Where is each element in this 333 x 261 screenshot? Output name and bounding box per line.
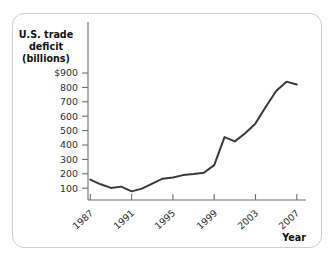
- x-tick-label-2007: 2007: [276, 207, 301, 231]
- y-tick-label-900: $900: [54, 67, 78, 78]
- y-tick-label-800: 800: [60, 82, 78, 93]
- x-tick-label-1999: 1999: [194, 207, 219, 231]
- x-tick-label-2003: 2003: [235, 207, 260, 231]
- trade-deficit-line-chart: U.S. trade deficit (billions) $900 800 7…: [0, 0, 333, 261]
- y-axis-title: U.S. trade deficit (billions): [19, 29, 74, 64]
- x-tick-label-1987: 1987: [70, 207, 95, 231]
- y-tick-label-100: 100: [60, 183, 78, 194]
- y-axis-title-line-2: deficit: [29, 41, 63, 52]
- x-axis: 1987 1991 1995 1999 2003 2007 Year: [70, 194, 306, 243]
- y-tick-label-200: 200: [60, 168, 78, 179]
- figure-root: U.S. trade deficit (billions) $900 800 7…: [0, 0, 333, 261]
- y-tick-label-400: 400: [60, 139, 78, 150]
- x-axis-title: Year: [281, 232, 306, 243]
- y-tick-label-700: 700: [60, 96, 78, 107]
- y-tick-label-500: 500: [60, 125, 78, 136]
- x-tick-label-1991: 1991: [111, 207, 136, 231]
- data-series-line: [90, 82, 296, 192]
- y-axis-title-line-3: (billions): [22, 53, 70, 64]
- y-tick-label-600: 600: [60, 111, 78, 122]
- y-axis-title-line-1: U.S. trade: [19, 29, 74, 40]
- y-tick-label-300: 300: [60, 154, 78, 165]
- x-tick-label-1995: 1995: [152, 207, 177, 231]
